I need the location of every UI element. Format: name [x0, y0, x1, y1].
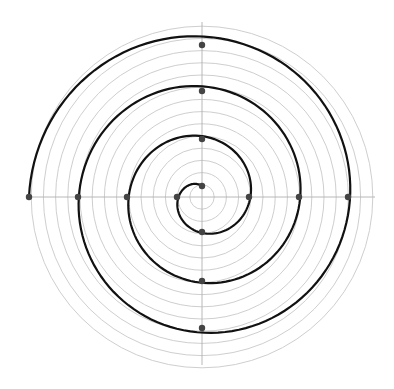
spiral-point-marker	[174, 194, 180, 200]
spiral-point-marker	[199, 88, 205, 94]
spiral-point-marker	[199, 229, 205, 235]
spiral-point-marker	[199, 42, 205, 48]
spiral-point-marker	[199, 136, 205, 142]
spiral-point-marker	[26, 194, 32, 200]
spiral-point-marker	[345, 194, 351, 200]
spiral-point-marker	[199, 278, 205, 284]
axes	[29, 22, 375, 365]
spiral-point-marker	[75, 194, 81, 200]
spiral-point-marker	[246, 194, 252, 200]
spiral-point-marker	[296, 194, 302, 200]
spiral-point-marker	[124, 194, 130, 200]
spiral-point-marker	[199, 183, 205, 189]
spiral-diagram	[0, 0, 394, 389]
spiral-point-marker	[199, 325, 205, 331]
